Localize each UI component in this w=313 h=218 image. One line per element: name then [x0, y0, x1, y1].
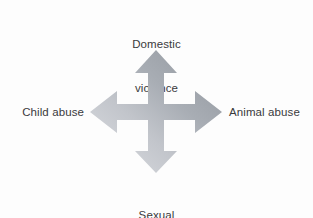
four-way-arrow-svg — [87, 48, 225, 175]
label-child-abuse: Child abuse — [0, 105, 84, 120]
four-way-arrow-path — [90, 50, 222, 173]
label-animal-abuse: Animal abuse — [229, 105, 313, 120]
four-way-arrow-icon — [87, 48, 225, 175]
label-sexual-abuse: Sexual abuse — [0, 179, 313, 218]
figure-canvas: Domestic violence Child abuse Animal abu… — [0, 0, 313, 218]
label-sexual-abuse-line-1: Sexual — [0, 208, 313, 218]
